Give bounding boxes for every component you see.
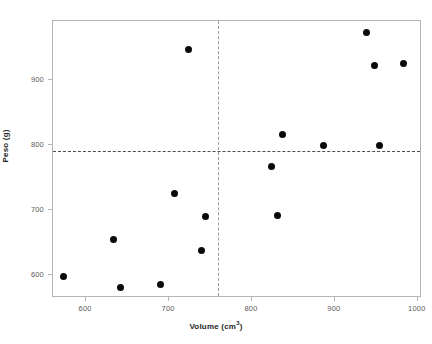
x-tick-mark <box>334 297 335 301</box>
x-tick-label: 600 <box>79 304 92 313</box>
y-tick-mark <box>48 274 52 275</box>
x-tick-label: 700 <box>162 304 175 313</box>
data-point <box>202 213 209 220</box>
x-tick-mark <box>251 297 252 301</box>
data-point <box>198 247 205 254</box>
x-tick-label: 1000 <box>408 304 426 313</box>
x-tick-label: 800 <box>244 304 257 313</box>
x-axis-title-text: Volume (cm <box>189 322 236 331</box>
data-point <box>279 131 286 138</box>
data-point <box>268 163 275 170</box>
data-point <box>60 273 67 280</box>
data-point <box>110 236 117 243</box>
reference-line-horizontal <box>53 151 420 152</box>
y-tick-mark <box>48 209 52 210</box>
x-tick-mark <box>417 297 418 301</box>
y-tick-label: 800 <box>31 139 44 148</box>
scatter-plot: 6007008009001000600700800900 Volume (cm3… <box>0 0 432 344</box>
x-tick-mark <box>85 297 86 301</box>
y-tick-label: 900 <box>31 74 44 83</box>
data-point <box>376 142 383 149</box>
y-tick-mark <box>48 79 52 80</box>
data-point <box>363 29 370 36</box>
data-point <box>171 190 178 197</box>
data-point <box>320 142 327 149</box>
x-axis-title-close: ) <box>240 322 243 331</box>
data-point <box>117 284 124 291</box>
x-tick-label: 900 <box>327 304 340 313</box>
data-point <box>157 281 164 288</box>
data-point <box>274 212 281 219</box>
y-tick-label: 700 <box>31 205 44 214</box>
y-tick-mark <box>48 144 52 145</box>
reference-line-vertical <box>218 21 219 296</box>
data-point <box>185 46 192 53</box>
plot-area <box>53 21 420 296</box>
x-axis-title: Volume (cm3) <box>0 320 432 331</box>
y-tick-label: 600 <box>31 270 44 279</box>
plot-frame <box>52 20 421 297</box>
data-point <box>400 60 407 67</box>
x-tick-mark <box>168 297 169 301</box>
y-axis-title: Peso (g) <box>1 129 10 162</box>
data-point <box>371 62 378 69</box>
